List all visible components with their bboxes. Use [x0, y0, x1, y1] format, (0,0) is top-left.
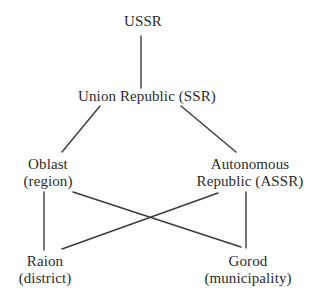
- node-autonomous-republic-sublabel: Republic (ASSR): [197, 173, 304, 190]
- node-gorod-label: Gorod: [229, 253, 268, 269]
- edge-ssr-to-assr: [181, 106, 236, 152]
- node-raion-label: Raion: [27, 253, 63, 269]
- edge-assr-to-raion: [62, 193, 218, 249]
- node-oblast: Oblast (region): [23, 156, 72, 190]
- node-gorod: Gorod (municipality): [204, 253, 291, 287]
- node-union-republic: Union Republic (SSR): [78, 88, 216, 105]
- node-ussr-label: USSR: [124, 13, 162, 29]
- node-autonomous-republic: Autonomous Republic (ASSR): [197, 156, 304, 190]
- edge-oblast-to-gorod: [73, 192, 241, 247]
- hierarchy-diagram: USSR Union Republic (SSR) Oblast (region…: [0, 0, 321, 303]
- node-ussr: USSR: [124, 13, 162, 30]
- node-raion-sublabel: (district): [19, 270, 72, 287]
- edge-ssr-to-oblast: [62, 106, 100, 152]
- node-union-republic-label: Union Republic (SSR): [78, 88, 216, 104]
- node-oblast-sublabel: (region): [23, 173, 72, 190]
- node-gorod-sublabel: (municipality): [204, 270, 291, 287]
- node-autonomous-republic-label: Autonomous: [211, 156, 290, 172]
- node-raion: Raion (district): [19, 253, 72, 287]
- node-oblast-label: Oblast: [28, 156, 68, 172]
